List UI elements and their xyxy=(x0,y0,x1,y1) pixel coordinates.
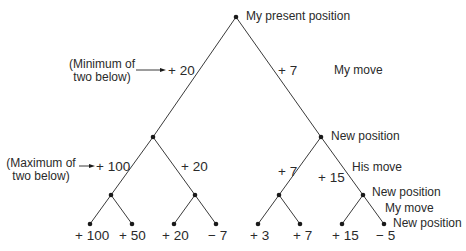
leaf-value: − 5 xyxy=(376,229,395,243)
new-position-label: New position xyxy=(393,217,462,230)
leaf-value: − 7 xyxy=(208,229,227,243)
node xyxy=(361,193,366,198)
his-move-label: His move xyxy=(352,161,402,174)
my-move-label: My move xyxy=(334,64,383,77)
leaf-value: + 3 xyxy=(250,229,269,243)
value-level2: + 20 xyxy=(181,160,208,174)
node xyxy=(319,135,324,140)
maximum-annotation: (Maximum of two below) xyxy=(3,157,79,183)
edge xyxy=(111,195,132,224)
tree-edges xyxy=(79,17,384,224)
leaf-node xyxy=(172,222,177,227)
my-move-label: My move xyxy=(385,202,434,215)
edge xyxy=(342,195,363,224)
value-level2: + 15 xyxy=(318,171,345,185)
tree-nodes xyxy=(88,15,387,227)
leaf-node xyxy=(298,222,303,227)
new-position-label: New position xyxy=(331,130,400,143)
leaf-value: + 50 xyxy=(119,229,146,243)
arrowhead-icon xyxy=(160,68,166,72)
edge xyxy=(90,195,111,224)
value-level2: + 100 xyxy=(96,160,130,174)
edge xyxy=(279,195,300,224)
new-position-label: New position xyxy=(372,186,441,199)
node xyxy=(109,193,114,198)
arrowhead-icon xyxy=(89,164,95,168)
minimum-annotation: (Minimum of two below) xyxy=(62,58,142,84)
leaf-value: + 100 xyxy=(75,229,109,243)
edge xyxy=(363,195,384,224)
edge xyxy=(258,195,279,224)
maximum-annotation-line2: two below) xyxy=(3,170,79,183)
node xyxy=(277,193,282,198)
node-root xyxy=(234,15,239,20)
leaf-node xyxy=(256,222,261,227)
leaf-node xyxy=(340,222,345,227)
edge xyxy=(174,195,195,224)
leaf-value: + 15 xyxy=(332,229,359,243)
value-level1-right: + 7 xyxy=(278,64,297,78)
root-label: My present position xyxy=(246,10,350,23)
leaf-value: + 7 xyxy=(293,229,312,243)
edge xyxy=(195,195,216,224)
node xyxy=(193,193,198,198)
leaf-node xyxy=(130,222,135,227)
leaf-node xyxy=(382,222,387,227)
minimum-annotation-line2: two below) xyxy=(62,71,142,84)
value-level2: + 7 xyxy=(278,165,297,179)
leaf-node xyxy=(214,222,219,227)
leaf-node xyxy=(88,222,93,227)
leaf-value: + 20 xyxy=(162,229,189,243)
node xyxy=(151,135,156,140)
value-level1-left: + 20 xyxy=(168,64,195,78)
